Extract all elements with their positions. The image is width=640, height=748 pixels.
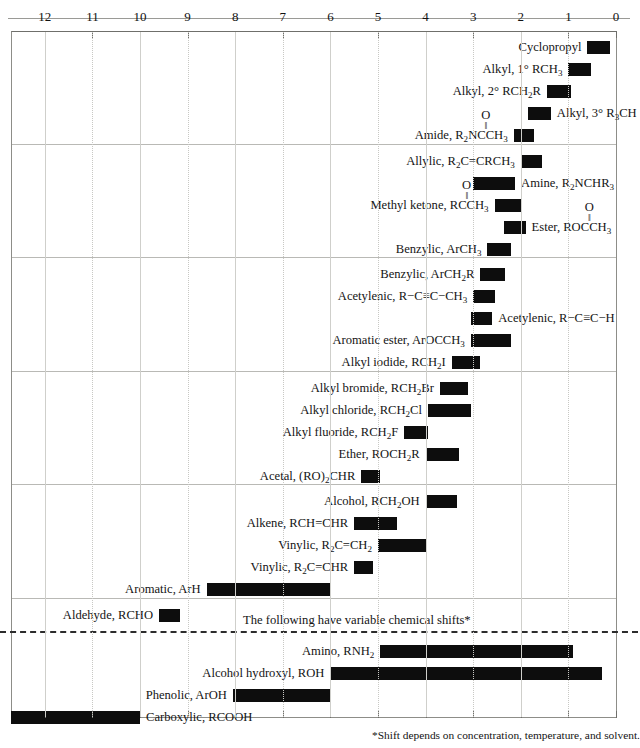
shift-row-label: Benzylic, ArCH3	[396, 240, 482, 262]
gridline-11	[92, 32, 93, 717]
gridline-8	[235, 32, 236, 717]
axis-tick-label-2: 2	[518, 10, 525, 23]
shift-range-bar	[11, 711, 140, 724]
shift-range-bar	[159, 609, 180, 622]
shift-row: Ester, ROCO‖CH3	[0, 217, 638, 239]
shift-range-bar	[380, 645, 573, 658]
shift-row-label: Amino, RNH2	[302, 642, 374, 664]
variable-shift-divider	[0, 631, 638, 633]
shift-range-bar	[426, 495, 457, 508]
shift-range-bar	[233, 689, 331, 702]
shift-row: Alkyl, 3° R3CH	[0, 103, 638, 125]
shift-row-label: Acetylenic, R−C≡C−H	[498, 309, 614, 327]
shift-row: Benzylic, ArCH2R	[0, 264, 638, 286]
gridline-9	[188, 32, 189, 717]
shift-range-bar	[504, 221, 525, 234]
axis-tick-label-4: 4	[422, 10, 429, 23]
shift-range-bar	[378, 539, 426, 552]
shift-row-label: Acetal, (RO)2CHR	[260, 467, 355, 489]
shift-range-bar	[547, 85, 571, 98]
shift-row-label: Methyl ketone, RCO‖CH3	[370, 196, 488, 218]
shift-row-label: Ether, ROCH2R	[339, 445, 420, 467]
section-divider	[12, 257, 616, 258]
shift-row: Ether, ROCH2R	[0, 444, 638, 466]
shift-range-bar	[330, 667, 601, 680]
shift-row: Alcohol hydroxyl, ROH	[0, 663, 638, 685]
shift-row-label: Alkyl, 2° RCH2R	[453, 82, 541, 104]
shift-range-bar	[487, 243, 511, 256]
shift-row-label: Aromatic, ArH	[125, 580, 201, 598]
shift-row-label: Alkyl bromide, RCH2Br	[311, 379, 434, 401]
shift-row-label: Amide, R2NCO‖CH3	[415, 126, 508, 148]
footnote: *Shift depends on concentration, tempera…	[372, 729, 640, 742]
gridline-10	[140, 32, 141, 717]
axis-tick-labels: 1211109876543210	[0, 0, 638, 30]
shift-row-label: Ester, ROCO‖CH3	[532, 218, 612, 240]
shift-range-bar	[354, 517, 397, 530]
shift-row: Alkyl, 2° RCH2R	[0, 81, 638, 103]
section-divider	[12, 598, 616, 599]
shift-range-bar	[473, 290, 494, 303]
gridline-7	[283, 32, 284, 717]
shift-range-bar	[471, 334, 511, 347]
shift-row-label: Allylic, R2C=CRCH3	[406, 152, 515, 174]
shift-row: Vinylic, R2C=CHR	[0, 557, 638, 579]
shift-row: Acetylenic, R−C≡C−CH3	[0, 286, 638, 308]
shift-row-label: Carboxylic, RCOOH	[146, 708, 252, 726]
gridline-2	[521, 32, 522, 717]
shift-range-bar	[426, 448, 459, 461]
shift-row-label: Alkene, RCH=CHR	[247, 514, 349, 532]
gridline-12	[45, 32, 46, 717]
shift-range-bar	[514, 129, 534, 142]
shift-row-label: Alkyl, 1° RCH3	[483, 60, 563, 82]
shift-row: Alkyl, 1° RCH3	[0, 59, 638, 81]
shift-row-label: Phenolic, ArOH	[146, 686, 227, 704]
axis-tick-label-7: 7	[280, 10, 287, 23]
shift-row-label: Cyclopropyl	[518, 38, 581, 56]
gridline-1	[568, 32, 569, 717]
shift-row: Allylic, R2C=CRCH3	[0, 151, 638, 173]
axis-tick-label-3: 3	[470, 10, 477, 23]
axis-tickmark-0	[616, 31, 617, 38]
shift-row: Alkene, RCH=CHR	[0, 513, 638, 535]
shift-row-label: Alkyl chloride, RCH2Cl	[300, 401, 422, 423]
shift-range-bar	[528, 107, 551, 120]
axis-tick-label-11: 11	[86, 10, 99, 23]
axis-tick-label-6: 6	[327, 10, 334, 23]
shift-row: Aromatic ester, ArOCCH3	[0, 330, 638, 352]
shift-row: Amine, R2NCHR3	[0, 173, 638, 195]
shift-row: Methyl ketone, RCO‖CH3	[0, 195, 638, 217]
gridline-4	[426, 32, 427, 717]
shift-range-bar	[428, 404, 471, 417]
shift-row: Alcohol, RCH2OH	[0, 491, 638, 513]
shift-row-label: Acetylenic, R−C≡C−CH3	[338, 287, 467, 309]
shift-range-bar	[452, 356, 481, 369]
shift-row-label: Alcohol hydroxyl, ROH	[202, 664, 324, 682]
shift-range-bar	[354, 561, 373, 574]
axis-tickmark-bottom-0	[616, 711, 617, 718]
variable-shift-note: The following have variable chemical shi…	[243, 613, 471, 627]
shift-range-bar	[480, 268, 505, 281]
shift-row: Cyclopropyl	[0, 37, 638, 59]
section-divider	[12, 484, 616, 485]
shift-row: Alkyl fluoride, RCH2F	[0, 422, 638, 444]
shift-row-label: Vinylic, R2C=CHR	[251, 558, 349, 580]
gridline-6	[330, 32, 331, 717]
axis-tick-label-8: 8	[232, 10, 239, 23]
shift-row: Alkyl chloride, RCH2Cl	[0, 400, 638, 422]
shift-row: Carboxylic, RCOOH	[0, 707, 638, 729]
section-divider	[12, 371, 616, 372]
shift-range-bar	[568, 63, 591, 76]
shift-row-label: Vinylic, R2C=CH2	[278, 536, 372, 558]
shift-range-bar	[495, 199, 521, 212]
shift-row: Acetylenic, R−C≡C−H	[0, 308, 638, 330]
shift-range-bar	[440, 382, 469, 395]
section-divider	[12, 144, 616, 145]
shift-row-label: Alkyl iodide, RCH2I	[342, 353, 446, 375]
axis-tick-label-5: 5	[375, 10, 382, 23]
gridline-5	[378, 32, 379, 717]
axis-tick-label-9: 9	[184, 10, 191, 23]
shift-row: Alkyl bromide, RCH2Br	[0, 378, 638, 400]
shift-row-label: Alkyl fluoride, RCH2F	[283, 423, 398, 445]
